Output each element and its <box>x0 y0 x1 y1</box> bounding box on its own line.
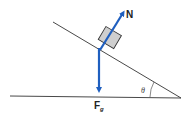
ground-line <box>10 96 181 98</box>
normal-force-label: N <box>126 9 133 20</box>
gravity-force-label: Fg <box>94 100 104 112</box>
angle-label: θ <box>141 86 145 95</box>
angle-arc <box>150 82 154 97</box>
incline-diagram: N Fg θ <box>0 0 191 118</box>
